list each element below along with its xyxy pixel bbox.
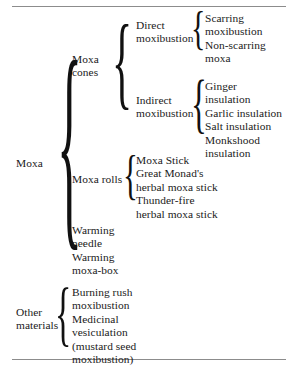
branch-label-moxa-cones: Moxa cones	[72, 53, 99, 80]
group-label-other-materials: Other materials	[16, 306, 58, 333]
leaves-warming: Warming needle Warming moxa-box	[72, 224, 119, 278]
leaves-direct-moxibustion: Scarring moxibustion Non-scarring moxa	[205, 12, 266, 66]
brace-glyph: {	[55, 285, 71, 341]
root-label-moxa: Moxa	[16, 157, 43, 170]
brace-glyph: {	[57, 55, 82, 233]
leaves-indirect-moxibustion: Ginger insulation Garlic insulation Salt…	[205, 80, 282, 160]
branch-label-moxa-rolls: Moxa rolls	[72, 173, 122, 186]
top-rule	[12, 6, 286, 7]
bottom-rule	[12, 359, 286, 360]
node-label-indirect-moxibustion: Indirect moxibustion	[136, 94, 194, 121]
brace-glyph: {	[112, 22, 132, 102]
leaves-moxa-rolls: Moxa Stick Great Monad's herbal moxa sti…	[136, 154, 218, 221]
leaves-other-materials: Burning rush moxibustion Medicinal vesic…	[72, 286, 136, 366]
node-label-direct-moxibustion: Direct moxibustion	[136, 19, 194, 46]
brace-glyph: {	[191, 11, 205, 46]
